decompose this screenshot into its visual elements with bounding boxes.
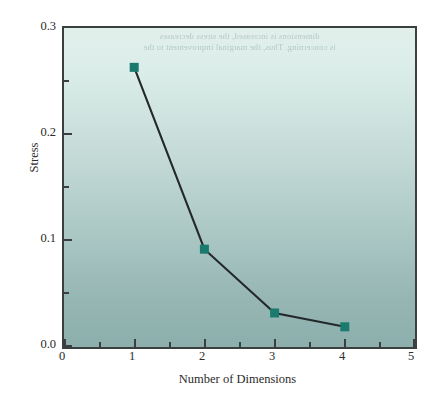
x-tick-0 bbox=[64, 339, 66, 348]
x-tick-1 bbox=[134, 339, 136, 348]
y-tick-0.05 bbox=[63, 292, 69, 294]
x-tick-1.5 bbox=[169, 342, 171, 348]
stress-scree-plot-figure: dimensions is increased, the stress decr… bbox=[0, 0, 435, 398]
x-tick-4 bbox=[344, 339, 346, 348]
stress-markers bbox=[130, 63, 350, 331]
y-tick-0.15 bbox=[63, 186, 69, 188]
data-point-3 bbox=[270, 308, 279, 317]
y-tick-label-0.0: 0.0 bbox=[16, 338, 56, 351]
x-tick-label-0: 0 bbox=[47, 350, 77, 363]
x-tick-label-5: 5 bbox=[396, 350, 426, 363]
x-tick-label-3: 3 bbox=[257, 350, 287, 363]
x-tick-5 bbox=[413, 339, 415, 348]
y-tick-0.2 bbox=[63, 133, 72, 135]
x-axis-title: Number of Dimensions bbox=[62, 372, 413, 387]
x-tick-label-1: 1 bbox=[117, 350, 147, 363]
plot-area: dimensions is increased, the stress decr… bbox=[62, 26, 417, 349]
y-axis-title: Stress bbox=[27, 118, 42, 198]
data-series-svg bbox=[64, 28, 415, 347]
x-tick-3.5 bbox=[309, 342, 311, 348]
x-tick-3 bbox=[274, 339, 276, 348]
y-tick-0.1 bbox=[63, 239, 72, 241]
x-tick-4.5 bbox=[379, 342, 381, 348]
y-tick-label-0.1: 0.1 bbox=[16, 232, 56, 245]
x-tick-2.5 bbox=[239, 342, 241, 348]
data-point-1 bbox=[130, 63, 139, 72]
stress-line bbox=[134, 67, 345, 326]
y-tick-label-0.3: 0.3 bbox=[16, 20, 56, 33]
data-point-2 bbox=[200, 245, 209, 254]
x-tick-0.5 bbox=[99, 342, 101, 348]
x-tick-label-4: 4 bbox=[327, 350, 357, 363]
y-tick-0.25 bbox=[63, 80, 69, 82]
x-tick-2 bbox=[204, 339, 206, 348]
x-tick-label-2: 2 bbox=[187, 350, 217, 363]
data-point-4 bbox=[340, 322, 349, 331]
